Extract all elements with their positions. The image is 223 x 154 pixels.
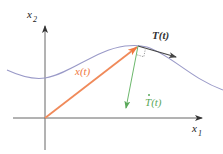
x2-label-sub: 2 xyxy=(33,15,37,24)
tangent-derivative-arrow xyxy=(126,46,138,108)
x2-axis-label: x2 xyxy=(27,9,37,20)
tangent-derivative-suffix: (t) xyxy=(151,96,161,108)
x1-axis-label: x1 xyxy=(192,123,202,134)
x1-label-main: x xyxy=(192,122,197,134)
tangent-vector-label: T(t) xyxy=(152,30,169,41)
tangent-derivative-main: T xyxy=(145,96,151,108)
diagram-canvas: x2 x1 x(t) T(t) T(t) xyxy=(0,0,223,154)
tangent-derivative-label: T(t) xyxy=(145,97,162,108)
x1-label-sub: 1 xyxy=(198,129,202,138)
x2-label-main: x xyxy=(27,8,32,20)
position-vector-label: x(t) xyxy=(75,66,90,77)
curve xyxy=(7,45,223,90)
